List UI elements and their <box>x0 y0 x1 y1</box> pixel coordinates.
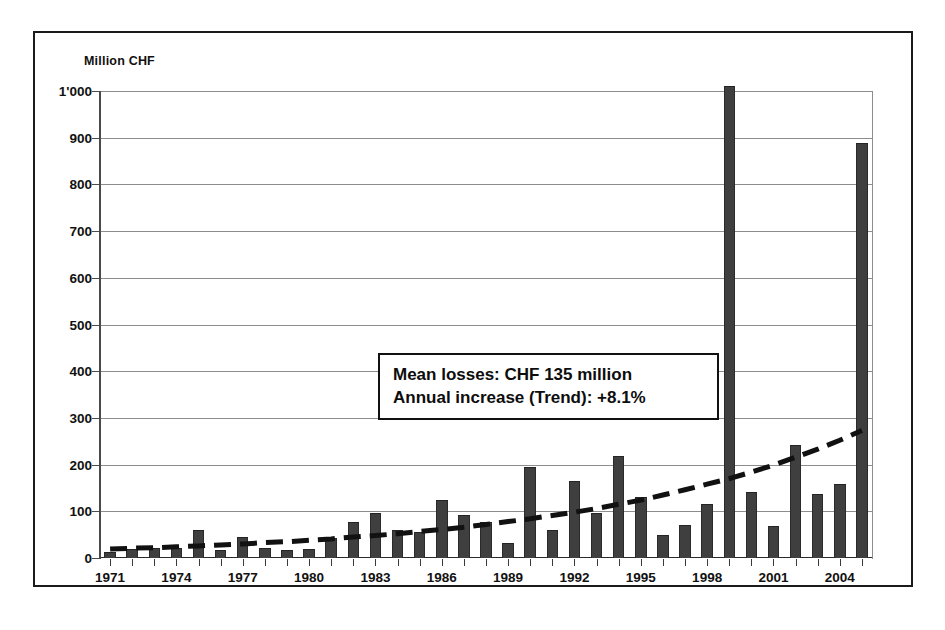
y-tick-label: 400 <box>30 364 92 379</box>
gridline <box>99 138 873 139</box>
y-tick-mark <box>92 325 99 326</box>
x-tick-label: 1998 <box>692 570 722 585</box>
x-tick-mark <box>773 559 774 566</box>
x-tick-mark <box>154 559 155 566</box>
bar <box>281 550 292 558</box>
x-axis-tick-labels: 1971197419771980198319861989199219951998… <box>99 570 873 592</box>
y-axis-tick-labels: 01002003004005006007008009001'000 <box>30 91 92 559</box>
y-tick-mark <box>92 231 99 232</box>
bar <box>237 537 248 558</box>
x-tick-label: 1974 <box>161 570 191 585</box>
x-tick-label: 2004 <box>825 570 855 585</box>
x-tick-mark <box>464 559 465 566</box>
bar <box>502 543 513 558</box>
bar <box>790 445 801 558</box>
annotation-annual-increase: Annual increase (Trend): +8.1% <box>393 387 717 409</box>
x-tick-mark <box>619 559 620 566</box>
y-tick-mark <box>92 371 99 372</box>
x-tick-label: 1995 <box>626 570 656 585</box>
y-tick-label: 300 <box>30 410 92 425</box>
y-tick-mark <box>92 465 99 466</box>
x-tick-label: 1980 <box>294 570 324 585</box>
bar <box>856 143 867 558</box>
x-tick-mark <box>597 559 598 566</box>
x-tick-mark <box>199 559 200 566</box>
bar <box>171 548 182 558</box>
plot-right-border <box>872 91 873 559</box>
y-tick-label: 0 <box>30 551 92 566</box>
y-tick-label: 200 <box>30 457 92 472</box>
x-tick-mark <box>796 559 797 566</box>
y-tick-label: 700 <box>30 224 92 239</box>
x-axis-tick-marks <box>99 559 873 567</box>
y-tick-mark <box>92 511 99 512</box>
bar <box>524 467 535 558</box>
bar <box>679 525 690 558</box>
x-tick-mark <box>552 559 553 566</box>
y-tick-mark <box>92 558 99 559</box>
gridlines-and-bars <box>99 91 873 558</box>
y-tick-mark <box>92 184 99 185</box>
x-tick-mark <box>176 559 177 566</box>
x-tick-mark <box>508 559 509 566</box>
bar <box>348 522 359 558</box>
y-axis-tick-marks <box>92 91 100 559</box>
x-tick-mark <box>641 559 642 566</box>
x-tick-mark <box>398 559 399 566</box>
x-tick-mark <box>353 559 354 566</box>
x-tick-mark <box>420 559 421 566</box>
plot-area <box>99 91 873 558</box>
bar <box>569 481 580 558</box>
bar <box>104 552 115 558</box>
x-tick-mark <box>309 559 310 566</box>
bar <box>458 515 469 558</box>
gridline <box>99 91 873 92</box>
bar <box>149 548 160 558</box>
bar <box>215 550 226 558</box>
x-tick-mark <box>221 559 222 566</box>
bar <box>657 535 668 558</box>
gridline <box>99 465 873 466</box>
x-tick-mark <box>265 559 266 566</box>
bar <box>193 530 204 558</box>
bar <box>325 538 336 558</box>
annotation-callout-box: Mean losses: CHF 135 million Annual incr… <box>378 353 719 420</box>
y-tick-label: 100 <box>30 504 92 519</box>
x-tick-mark <box>862 559 863 566</box>
bar <box>370 513 381 558</box>
x-tick-mark <box>287 559 288 566</box>
x-tick-mark <box>840 559 841 566</box>
x-tick-label: 2001 <box>758 570 788 585</box>
bar <box>613 456 624 558</box>
gridline <box>99 325 873 326</box>
x-tick-mark <box>331 559 332 566</box>
y-tick-label: 600 <box>30 270 92 285</box>
y-tick-label: 1'000 <box>30 84 92 99</box>
x-tick-label: 1983 <box>360 570 390 585</box>
bar <box>812 494 823 558</box>
bar <box>436 500 447 558</box>
x-tick-mark <box>375 559 376 566</box>
bar <box>635 497 646 558</box>
y-axis-unit-label: Million CHF <box>84 54 155 68</box>
bar <box>746 492 757 558</box>
x-tick-mark <box>486 559 487 566</box>
x-tick-mark <box>442 559 443 566</box>
bar <box>547 530 558 558</box>
x-tick-mark <box>818 559 819 566</box>
x-tick-mark <box>110 559 111 566</box>
bar <box>834 484 845 558</box>
x-tick-label: 1971 <box>95 570 125 585</box>
chart-page: Million CHF 0100200300400500600700800900… <box>0 0 945 630</box>
x-tick-mark <box>729 559 730 566</box>
gridline <box>99 278 873 279</box>
bar <box>303 549 314 558</box>
x-tick-label: 1992 <box>559 570 589 585</box>
y-tick-mark <box>92 278 99 279</box>
x-tick-label: 1989 <box>493 570 523 585</box>
gridline <box>99 184 873 185</box>
y-tick-mark <box>92 418 99 419</box>
bar <box>768 526 779 558</box>
y-tick-mark <box>92 91 99 92</box>
x-tick-mark <box>132 559 133 566</box>
